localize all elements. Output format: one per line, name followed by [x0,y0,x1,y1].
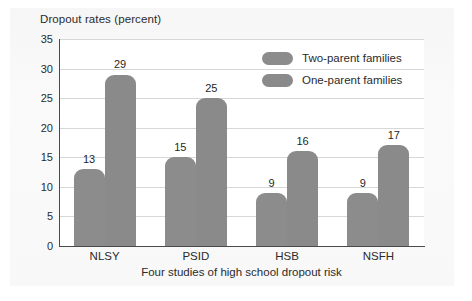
bar[interactable] [256,193,287,246]
bar[interactable] [105,75,136,247]
bar[interactable] [347,193,378,246]
y-tick-label: 35 [27,33,53,45]
chart-legend: Two-parent familiesOne-parent families [262,48,412,92]
bar-group [74,39,136,246]
legend-item[interactable]: Two-parent families [262,48,412,68]
y-tick-label: 30 [27,63,53,75]
legend-swatch [262,74,293,87]
y-tick-label: 20 [27,122,53,134]
legend-label: One-parent families [302,74,402,86]
legend-label: Two-parent families [302,52,402,64]
bar[interactable] [165,157,196,246]
x-tick-label: NSFH [363,250,394,262]
y-tick-label: 0 [27,240,53,252]
y-tick-label: 15 [27,151,53,163]
bar[interactable] [196,98,227,246]
bar[interactable] [287,151,318,246]
y-tick-label: 5 [27,210,53,222]
chart-figure: Dropout rates (percent) 05101520253035 1… [0,0,472,301]
bar[interactable] [74,169,105,246]
legend-swatch [262,52,293,65]
y-tick-label: 25 [27,92,53,104]
x-tick-label: PSID [182,250,209,262]
bar-group [165,39,227,246]
chart-title: Dropout rates (percent) [40,13,161,25]
x-tick-label: HSB [275,250,299,262]
bar[interactable] [378,145,409,246]
y-axis-tick-labels: 05101520253035 [27,39,53,246]
x-axis-tick-labels: NLSYPSIDHSBNSFH [59,250,424,266]
x-tick-label: NLSY [90,250,120,262]
x-axis-line [59,246,425,247]
y-tick-label: 10 [27,181,53,193]
legend-item[interactable]: One-parent families [262,70,412,90]
x-axis-title: Four studies of high school dropout risk [59,266,424,278]
